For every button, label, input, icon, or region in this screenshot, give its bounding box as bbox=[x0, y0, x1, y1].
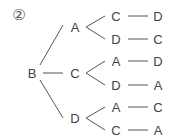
branch-line bbox=[86, 73, 105, 85]
level3-node: A bbox=[151, 79, 165, 92]
branch-line bbox=[40, 80, 63, 118]
level3-node: C bbox=[151, 33, 165, 46]
level3-node: C bbox=[151, 101, 165, 114]
level2-node: D bbox=[109, 33, 123, 46]
level2-node: C bbox=[109, 124, 123, 137]
branch-line bbox=[40, 25, 63, 65]
problem-number: ② bbox=[12, 8, 25, 23]
level2-node: D bbox=[109, 79, 123, 92]
level2-node: A bbox=[109, 101, 123, 114]
level3-node: D bbox=[151, 55, 165, 68]
level3-node: D bbox=[151, 10, 165, 23]
level1-node: D bbox=[68, 112, 82, 125]
branch-line bbox=[86, 27, 105, 39]
branch-line bbox=[86, 61, 105, 73]
level3-node: A bbox=[151, 124, 165, 137]
level2-node: C bbox=[109, 10, 123, 23]
branch-line bbox=[86, 107, 105, 118]
level1-node: C bbox=[68, 67, 82, 80]
level1-node: A bbox=[68, 21, 82, 34]
branch-line bbox=[86, 118, 105, 130]
root-node: B bbox=[25, 67, 39, 80]
level2-node: A bbox=[109, 55, 123, 68]
branch-line bbox=[86, 16, 105, 27]
tree-diagram: ② B A C D C D A D A C D C D A C A bbox=[0, 0, 173, 139]
